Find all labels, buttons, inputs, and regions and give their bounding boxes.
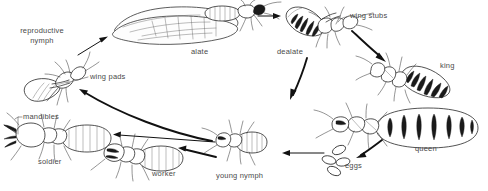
- label-king: king: [440, 61, 455, 71]
- label-wing-stubs: wing stubs: [350, 11, 387, 21]
- label-mandibles: mandibles: [23, 112, 59, 122]
- label-worker: worker: [152, 169, 176, 179]
- flow-arrow-eggs-to-young-nymph: [282, 150, 324, 156]
- flow-arrow-young-nymph-to-soldier: [113, 132, 215, 143]
- alate-figure: [112, 0, 281, 44]
- label-reproductive-nymph-line1: reproductive: [10, 26, 74, 36]
- label-young-nymph: young nymph: [216, 171, 263, 181]
- flow-arrow-dealate-to-queen: [290, 58, 307, 100]
- label-wing-pads: wing pads: [90, 72, 126, 82]
- reproductive-nymph-figure: [24, 52, 99, 105]
- termite-life-cycle-diagram: reproductive nymph wing pads alate deala…: [0, 0, 488, 191]
- young-nymph-figure: [202, 120, 267, 165]
- king-figure: [356, 53, 450, 103]
- label-dealate: dealate: [277, 47, 303, 57]
- label-reproductive-nymph-line2: nymph: [10, 36, 74, 46]
- label-soldier: soldier: [38, 157, 62, 167]
- flow-arrow-dealate-to-king: [352, 31, 386, 62]
- flow-arrow-nymph-to-alate: [78, 37, 108, 56]
- label-queen: queen: [415, 144, 437, 154]
- label-alate: alate: [191, 47, 208, 57]
- queen-figure: [314, 103, 478, 149]
- label-eggs: eggs: [345, 161, 362, 171]
- label-reproductive-nymph: reproductive nymph: [10, 26, 74, 45]
- flow-arrow-young-nymph-to-worker: [178, 146, 216, 158]
